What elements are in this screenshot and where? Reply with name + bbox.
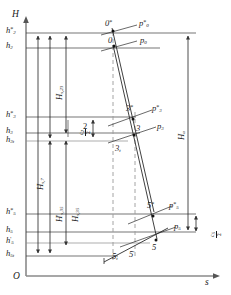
- isobar-label-p0: p0: [140, 36, 147, 45]
- isobar-label-p3star: p*3: [152, 104, 162, 113]
- isobar-label-p3: p3: [157, 122, 164, 131]
- axis-label-H: H: [12, 10, 19, 20]
- level-label-h5: h5: [6, 225, 13, 234]
- isobar-p0: [101, 41, 137, 51]
- hs-diagram-canvas: H s O h*2 h2 h*3 h3 h3t h*5 h5 h'5 h5t 0…: [0, 0, 231, 295]
- point-label-5: 5: [152, 243, 156, 252]
- marker-0star: [112, 30, 115, 33]
- marker-3: [133, 134, 136, 137]
- isobar-label-p5: p5: [174, 222, 181, 231]
- marker-3star: [132, 118, 135, 121]
- heatdrop-label-Ha: Ha: [177, 131, 186, 140]
- level-label-h5t: h5t: [6, 249, 14, 258]
- point-label-3star: 3*: [126, 104, 133, 113]
- isobar-label-p5star: p*5: [169, 201, 179, 210]
- level-label-h3t: h3t: [6, 135, 14, 144]
- point-label-5prime: 5': [129, 250, 134, 259]
- heatdrop-label-Hs35prime: H's,35: [55, 207, 64, 222]
- isobar-label-p0star: p*0: [139, 19, 149, 28]
- level-label-h2: h2: [6, 41, 13, 50]
- level-label-h3star: h*3: [6, 110, 16, 119]
- measure-arrow-Hs35: [50, 141, 66, 253]
- heatdrop-label-Hs35: Hs,35: [71, 208, 80, 222]
- heatdrop-label-Hs23: Hs,23: [55, 86, 64, 100]
- enthalpy-level-lines: [26, 33, 196, 256]
- stage-number-2: 2: [83, 122, 87, 131]
- axis-horizontal-s: [26, 273, 220, 279]
- axis-label-origin: O: [13, 272, 20, 282]
- isobar-p5: [120, 227, 176, 247]
- point-label-3t: 3t: [115, 144, 121, 153]
- point-label-5star: 5*: [147, 201, 154, 210]
- marker-5star: [152, 215, 155, 218]
- point-label-0: 0: [108, 36, 112, 45]
- level-label-h5prime: h'5: [6, 236, 14, 245]
- level-label-h2star: h*2: [6, 26, 16, 35]
- marker-0: [113, 45, 116, 48]
- expansion-process-lines: [104, 28, 168, 262]
- kinetic-label-c5: c5 2: [207, 231, 225, 238]
- axis-label-s: s: [205, 278, 209, 288]
- axis-vertical-H: [23, 16, 29, 276]
- point-label-3: 3: [136, 124, 140, 133]
- level-label-h5star: h*5: [6, 207, 16, 216]
- heatdrop-label-Hs7: Hs,7: [36, 178, 45, 190]
- point-label-5t: 5t: [112, 252, 118, 261]
- point-label-0star: 0*: [105, 19, 112, 28]
